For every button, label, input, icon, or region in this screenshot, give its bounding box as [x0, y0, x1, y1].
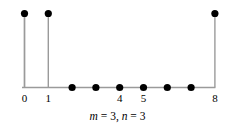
data-point-marker	[45, 10, 52, 17]
caption-part: = 3	[127, 110, 145, 122]
data-point-marker	[211, 10, 218, 17]
data-point-marker	[188, 84, 195, 91]
x-tick-label-0: 0	[17, 92, 33, 104]
data-point-marker	[164, 84, 171, 91]
figure-caption: m = 3, n = 3	[0, 110, 235, 122]
data-point-marker	[69, 84, 76, 91]
x-tick-label-1: 1	[40, 92, 56, 104]
x-tick-label-4: 4	[112, 92, 128, 104]
stem-plot-figure: 01458 m = 3, n = 3	[0, 0, 235, 132]
data-point-marker	[116, 84, 123, 91]
data-point-marker	[21, 10, 28, 17]
data-point-marker	[92, 84, 99, 91]
x-tick-label-5: 5	[136, 92, 152, 104]
caption-part: m	[90, 110, 98, 122]
data-point-marker	[140, 84, 147, 91]
caption-part: = 3,	[98, 110, 122, 122]
x-tick-label-8: 8	[207, 92, 223, 104]
